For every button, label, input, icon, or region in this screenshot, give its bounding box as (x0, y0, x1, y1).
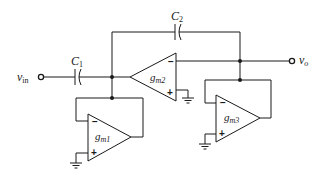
capacitor-c2: C2 (171, 9, 183, 40)
wire-gm1-plus-ground (76, 153, 88, 163)
junction-node-a (110, 75, 114, 79)
gm1-plus: + (91, 147, 97, 158)
ground-icon (182, 98, 194, 103)
input-terminal-circle (38, 74, 43, 79)
gm2-minus: − (168, 56, 174, 67)
junction-output (238, 59, 242, 63)
output-terminal: vo (289, 53, 308, 68)
transconductor-gm3: gm3 − + (216, 95, 260, 142)
capacitor-c1: C1 (71, 54, 83, 85)
transconductor-gm2: gm2 − + (130, 53, 176, 101)
gm1-minus: − (92, 116, 98, 127)
vin-label: vin (17, 70, 29, 85)
transconductor-gm1: gm1 − + (88, 114, 131, 161)
circuit-diagram: vin C1 C2 gm2 − + vo (0, 0, 324, 186)
gm2-plus: + (167, 87, 173, 98)
gm3-minus: − (220, 97, 226, 108)
ground-icon (70, 163, 82, 168)
wire-gm2-plus-ground (176, 90, 188, 98)
ground-icon (199, 144, 211, 149)
wire-gm3-plus-ground (205, 134, 216, 144)
gm3-plus: + (219, 128, 225, 139)
input-terminal: vin (17, 70, 44, 85)
c2-label: C2 (171, 9, 183, 24)
output-terminal-circle (289, 58, 294, 63)
c1-label: C1 (71, 54, 83, 69)
vo-label: vo (299, 53, 308, 68)
